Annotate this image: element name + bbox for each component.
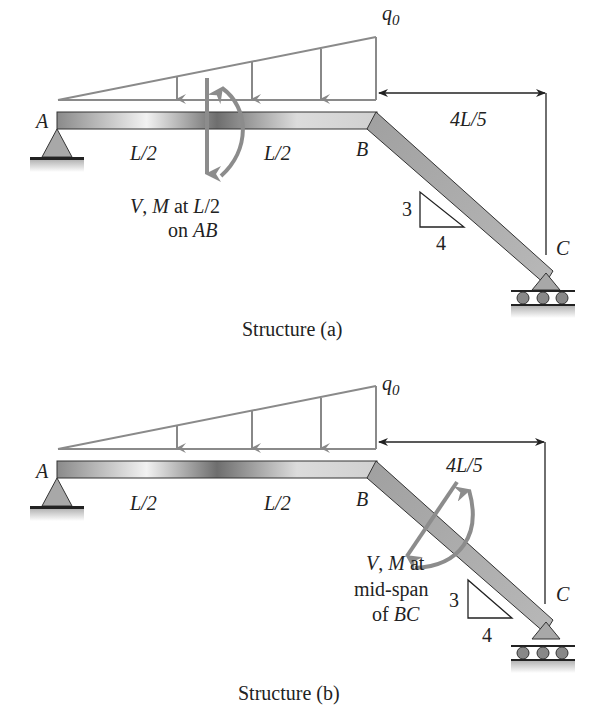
roller-support-c [511, 622, 575, 673]
section-note-line2: mid-span [354, 578, 428, 601]
load-label-q0: q0 [382, 372, 400, 398]
slope-run: 4 [482, 624, 492, 646]
span-left-label: L/2 [129, 142, 157, 164]
slope-rise: 3 [402, 198, 412, 220]
slope-rise: 3 [449, 589, 459, 611]
section-note-line1: V, M at [366, 552, 425, 574]
span-left-label: L/2 [129, 492, 157, 514]
structures-figure: q0 4L/5 3 4 [0, 0, 590, 715]
structure-a: q0 4L/5 3 4 [30, 2, 575, 341]
caption-structure-a: Structure (a) [242, 318, 343, 341]
point-c-label: C [556, 237, 570, 259]
moment-arrow-icon [221, 88, 243, 176]
distributed-load-a [58, 37, 376, 100]
point-b-label: B [356, 138, 368, 160]
span-right-label: L/2 [263, 492, 291, 514]
point-b-label: B [356, 488, 368, 510]
member-bc [367, 112, 553, 284]
section-note-line2: on AB [168, 219, 217, 241]
structure-b: q0 4L/5 3 4 A B C L/2 L/2 [30, 372, 575, 705]
pin-support-a [30, 478, 84, 521]
caption-structure-b: Structure (b) [238, 682, 340, 705]
span-right-label: L/2 [263, 142, 291, 164]
dim-label-4l5: 4L/5 [446, 454, 483, 476]
slope-run: 4 [436, 232, 446, 254]
dim-label-4l5: 4L/5 [450, 108, 487, 130]
beam-ab [57, 112, 377, 129]
point-a-label: A [34, 110, 49, 132]
beam-ab [57, 461, 377, 478]
load-label-q0: q0 [382, 2, 400, 28]
pin-support-a [30, 129, 84, 172]
distributed-load-b [58, 386, 376, 449]
roller-support-c [511, 273, 575, 318]
section-note-line3: of BC [372, 603, 420, 625]
section-note-line1: V, M at L/2 [130, 195, 220, 217]
point-c-label: C [556, 583, 570, 605]
point-a-label: A [34, 460, 49, 482]
